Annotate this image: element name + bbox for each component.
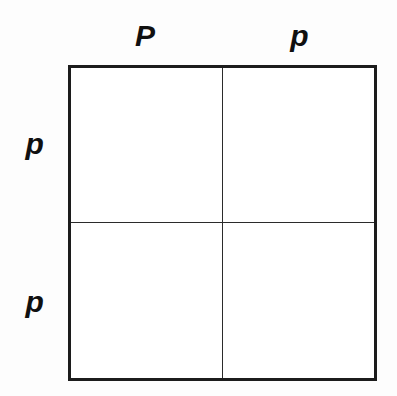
top-allele-label-row: P p bbox=[68, 14, 377, 58]
top-allele-label-col-0: P bbox=[68, 14, 223, 58]
allele-label: p bbox=[26, 287, 45, 317]
punnett-grid bbox=[68, 65, 377, 381]
side-allele-label-row-1: p bbox=[4, 223, 66, 381]
top-allele-label-col-1: p bbox=[223, 14, 378, 58]
punnett-cell-0-0[interactable] bbox=[71, 68, 223, 223]
allele-label: p bbox=[26, 129, 45, 159]
punnett-square-figure: P p p p bbox=[0, 0, 397, 396]
punnett-cell-1-0[interactable] bbox=[71, 223, 223, 378]
allele-label: P bbox=[135, 21, 156, 51]
punnett-cell-1-1[interactable] bbox=[223, 223, 375, 378]
punnett-grid-cells bbox=[71, 68, 374, 378]
side-allele-label-column: p p bbox=[4, 65, 66, 381]
punnett-cell-0-1[interactable] bbox=[223, 68, 375, 223]
side-allele-label-row-0: p bbox=[4, 65, 66, 223]
allele-label: p bbox=[290, 21, 309, 51]
